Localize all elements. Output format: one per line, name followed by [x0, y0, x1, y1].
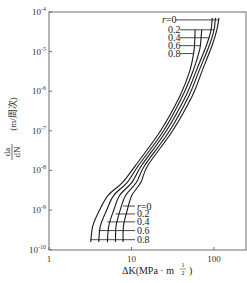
ylabel-unit: (m/周次)	[7, 97, 18, 131]
y-tick-label: 10-8	[32, 164, 46, 175]
curve-r-0-4	[107, 18, 212, 242]
xlabel-main: ΔK(MPa · m	[122, 265, 174, 277]
x-axis-label: ΔK(MPa · m 1 2 )	[122, 262, 192, 277]
xlabel-exp-den: 2	[182, 270, 185, 276]
ylabel-numerator: da	[2, 148, 12, 157]
xlabel-text: ΔK(MPa · m	[122, 265, 174, 277]
y-tick-label: 10-10	[29, 244, 46, 255]
x-tick-label: 100	[207, 254, 221, 264]
top-r-label: 0.8	[168, 48, 181, 59]
fatigue-crack-growth-chart: 10-410-510-610-710-810-910-10 110100 r=0…	[0, 0, 247, 283]
ylabel-denominator: dN	[12, 146, 22, 158]
y-tick-label: 10-6	[32, 85, 46, 96]
crack-growth-curves	[91, 18, 219, 242]
bottom-r-label: 0.8	[137, 234, 150, 245]
xlabel-exp-num: 1	[182, 262, 185, 268]
y-tick-label: 10-9	[32, 204, 46, 215]
x-tick-label: 10	[127, 254, 137, 264]
top-r-labels: r=00.20.40.60.8	[162, 14, 219, 59]
y-axis-label: da dN (m/周次)	[2, 97, 22, 160]
y-tick-label: 10-5	[32, 46, 46, 57]
y-tick-label: 10-7	[32, 125, 46, 136]
curve-r-0-2	[116, 18, 216, 242]
x-tick-label: 1	[47, 254, 52, 264]
y-tick-label: 10-4	[32, 6, 46, 17]
xlabel-close: )	[189, 265, 192, 277]
